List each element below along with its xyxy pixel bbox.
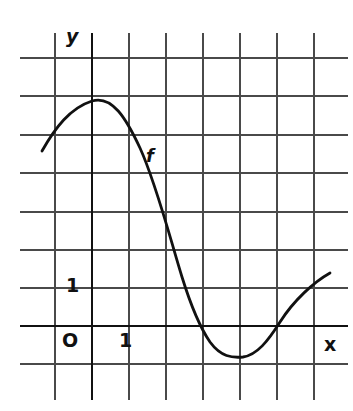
x-axis-label: x (324, 335, 336, 354)
y-unit-tick-label: 1 (66, 276, 79, 295)
function-graph-figure: y x f 1 O 1 (0, 0, 353, 411)
function-curve-f (42, 100, 330, 357)
plot-canvas (0, 0, 353, 411)
curve-label-f: f (146, 147, 154, 165)
origin-label: O (62, 331, 78, 350)
vertical-gridlines (55, 33, 314, 400)
horizontal-gridlines (20, 58, 348, 364)
x-unit-tick-label: 1 (119, 331, 132, 350)
y-axis-label: y (66, 27, 78, 46)
